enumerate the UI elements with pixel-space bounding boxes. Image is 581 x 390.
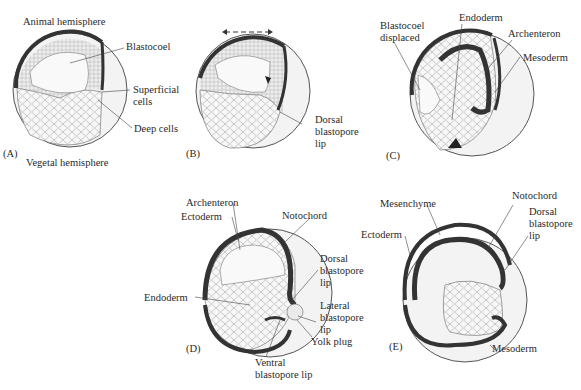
panel-label-d: (D) <box>186 343 201 354</box>
label-archenteron-c: Archenteron <box>508 28 560 40</box>
label-lateral-blastopore-lip: Lateral blastopore lip <box>320 300 364 336</box>
label-vegetal-hemisphere: Vegetal hemisphere <box>26 157 109 169</box>
label-ectoderm-e: Ectoderm <box>361 229 402 241</box>
panel-label-c: (C) <box>386 150 400 161</box>
label-mesoderm-c: Mesoderm <box>523 52 568 64</box>
panel-d-embryo <box>195 203 332 357</box>
label-animal-hemisphere: Animal hemisphere <box>23 16 106 28</box>
panel-a-embryo <box>13 31 132 147</box>
label-notochord-e: Notochord <box>512 190 557 202</box>
label-endoderm-c: Endoderm <box>459 12 503 24</box>
panel-e-embryo <box>403 205 528 362</box>
label-deep-cells: Deep cells <box>134 123 178 135</box>
label-notochord-d: Notochord <box>282 210 327 222</box>
panel-label-e: (E) <box>389 341 402 352</box>
panel-b-embryo <box>196 29 310 148</box>
label-dorsal-blastopore-lip-e: Dorsal blastopore lip <box>529 206 573 242</box>
panel-label-b: (B) <box>186 148 200 159</box>
panel-label-a: (A) <box>3 148 18 159</box>
label-archenteron-d: Archenteron <box>186 197 238 209</box>
label-superficial-cells: Superficial cells <box>133 84 179 108</box>
label-blastocoel: Blastocoel <box>126 41 170 53</box>
label-blastocoel-displaced: Blastocoel displaced <box>380 20 424 44</box>
label-mesenchyme: Mesenchyme <box>380 198 436 210</box>
label-yolk-plug: Yolk plug <box>311 336 352 348</box>
label-mesoderm-e: Mesoderm <box>492 343 537 355</box>
label-endoderm-d: Endoderm <box>144 292 188 304</box>
label-ventral-blastopore-lip: Ventral blastopore lip <box>255 357 312 381</box>
label-ectoderm-d: Ectoderm <box>181 211 222 223</box>
label-dorsal-blastopore-lip-b: Dorsal blastopore lip <box>315 114 359 150</box>
diagram-canvas <box>0 0 581 390</box>
label-dorsal-blastopore-lip-d: Dorsal blastopore lip <box>320 253 364 289</box>
